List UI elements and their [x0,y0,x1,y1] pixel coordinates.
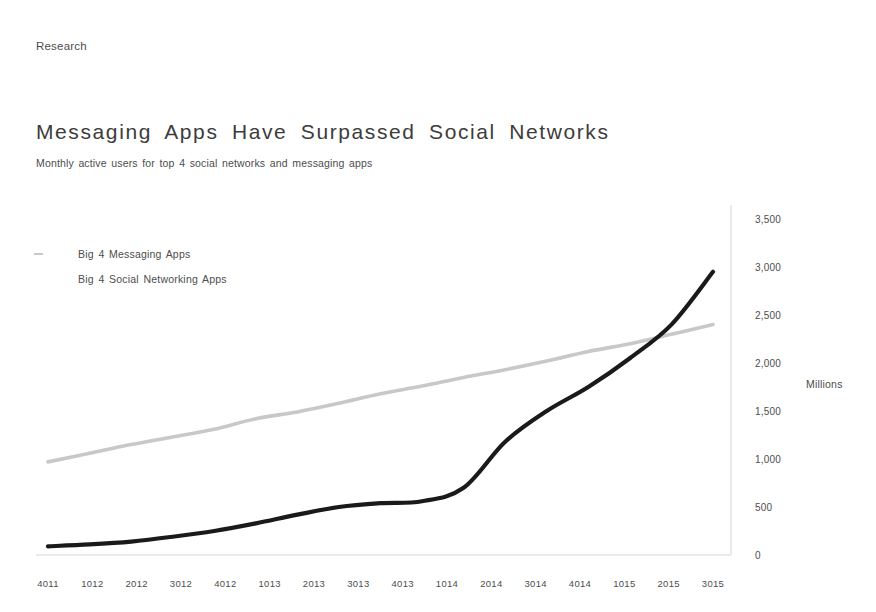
y-axis-tick-3500: 3,500 [755,214,781,225]
x-axis-tick-3012: 3012 [170,578,192,589]
x-axis-tick-1015: 1015 [613,578,635,589]
x-axis-tick-2012: 2012 [125,578,147,589]
legend-marker-icon [34,253,43,255]
y-axis-tick-2000: 2,000 [755,358,781,369]
y-axis-unit-label: Millions [806,378,843,390]
y-axis-tick-3000: 3,000 [755,262,781,273]
x-axis-tick-4014: 4014 [569,578,591,589]
x-axis-tick-1012: 1012 [81,578,103,589]
x-axis-tick-3014: 3014 [524,578,546,589]
x-axis-tick-3015: 3015 [702,578,724,589]
x-axis-tick-3013: 3013 [347,578,369,589]
x-axis-tick-4013: 4013 [391,578,413,589]
x-axis-tick-4012: 4012 [214,578,236,589]
line-chart-svg [0,0,876,612]
legend-item-social[interactable]: Big 4 Social Networking Apps [78,273,227,285]
series-path-group [48,272,713,547]
series-line-messaging [48,272,713,547]
y-axis-tick-0: 0 [755,550,761,561]
chart-page: Research Messaging Apps Have Surpassed S… [0,0,876,612]
series-line-social [48,325,713,462]
x-axis-tick-2014: 2014 [480,578,502,589]
x-axis-tick-1013: 1013 [258,578,280,589]
legend-item-messaging[interactable]: Big 4 Messaging Apps [78,248,190,260]
x-axis-tick-2013: 2013 [303,578,325,589]
x-axis-tick-2015: 2015 [657,578,679,589]
y-axis-tick-1000: 1,000 [755,454,781,465]
y-axis-tick-500: 500 [755,502,772,513]
y-axis-tick-1500: 1,500 [755,406,781,417]
x-axis-tick-1014: 1014 [436,578,458,589]
chart-plot-area [0,0,876,612]
y-axis-tick-2500: 2,500 [755,310,781,321]
x-axis-tick-4011: 4011 [37,578,59,589]
